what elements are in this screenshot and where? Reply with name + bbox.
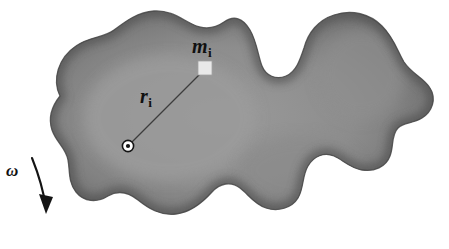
figure-canvas (0, 0, 449, 249)
mass-element-label: mi (192, 36, 212, 59)
rotation-axis-marker (122, 140, 133, 151)
angular-velocity-label: ω (6, 162, 18, 179)
rigid-body-blob (50, 11, 433, 214)
rigid-body-rotation-figure: mi ri ω (0, 0, 449, 249)
radius-label: ri (140, 86, 152, 109)
rotation-direction-arrow (32, 158, 53, 214)
mass-element-square (198, 61, 212, 75)
